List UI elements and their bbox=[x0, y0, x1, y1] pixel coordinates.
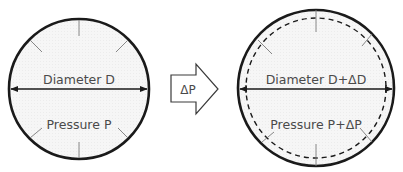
pressure-increase-arrow: ΔP bbox=[171, 64, 218, 114]
expanded-vessel: Diameter D+ΔD Pressure P+ΔP bbox=[238, 10, 394, 166]
initial-vessel: Diameter D Pressure P bbox=[9, 19, 149, 159]
pressure-label: Pressure P bbox=[47, 117, 112, 132]
expanded-vessel-outline bbox=[238, 10, 394, 166]
diameter-label: Diameter D+ΔD bbox=[266, 72, 367, 87]
delta-p-label: ΔP bbox=[180, 83, 195, 97]
diameter-label: Diameter D bbox=[43, 72, 115, 87]
pressure-label: Pressure P+ΔP bbox=[270, 117, 362, 132]
